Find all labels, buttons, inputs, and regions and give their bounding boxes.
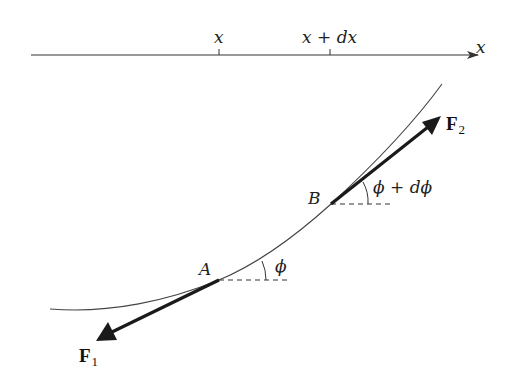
force-label-F1: F1	[79, 345, 98, 369]
force-label-F2: F2	[446, 113, 465, 137]
string-curve	[50, 84, 442, 310]
angle-arc-phi-plus-dphi	[363, 182, 368, 204]
x-axis: x x + dx x	[31, 27, 486, 57]
angle-label-phi: ϕ	[275, 256, 287, 276]
tick-label-x: x	[214, 27, 224, 47]
angle-arc-phi	[262, 261, 266, 280]
tick-label-x-plus-dx: x + dx	[302, 27, 358, 47]
svg-text:F2: F2	[446, 113, 465, 137]
point-label-B: B	[307, 188, 321, 208]
string-element-diagram: x x + dx x A B ϕ ϕ + dϕ F1 F2	[0, 0, 509, 382]
force-arrow-F1	[96, 280, 219, 341]
axis-label-x: x	[476, 37, 486, 57]
svg-text:F1: F1	[79, 345, 98, 369]
point-label-A: A	[197, 259, 211, 279]
angle-label-phi-plus-dphi: ϕ + dϕ	[373, 177, 433, 197]
